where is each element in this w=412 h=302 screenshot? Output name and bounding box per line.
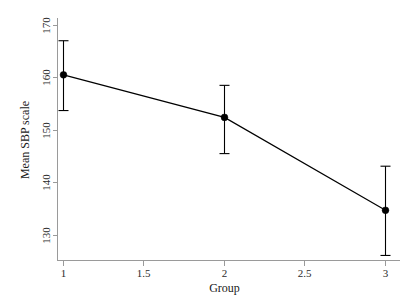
x-tick-label-2-5: 2.5 bbox=[298, 267, 312, 279]
y-tick-label-160: 160 bbox=[40, 69, 52, 86]
y-axis-title: Mean SBP scale bbox=[18, 101, 32, 179]
y-tick-label-150: 150 bbox=[40, 122, 52, 139]
x-tick-label-3: 3 bbox=[383, 267, 389, 279]
chart-background bbox=[0, 0, 412, 302]
chart-figure: 170 160 150 140 130 Mean SBP scale 1 1.5… bbox=[0, 0, 412, 302]
line-chart-with-error-bars: 170 160 150 140 130 Mean SBP scale 1 1.5… bbox=[0, 0, 412, 302]
x-axis-title: Group bbox=[209, 281, 240, 295]
y-tick-label-130: 130 bbox=[40, 227, 52, 244]
y-tick-label-140: 140 bbox=[40, 174, 52, 191]
x-tick-label-1-5: 1.5 bbox=[137, 267, 151, 279]
x-tick-label-1: 1 bbox=[61, 267, 67, 279]
data-point-group-3 bbox=[382, 207, 389, 214]
x-tick-label-2: 2 bbox=[222, 267, 228, 279]
y-tick-label-170: 170 bbox=[40, 17, 52, 34]
data-point-group-1 bbox=[60, 71, 67, 78]
data-point-group-2 bbox=[221, 114, 228, 121]
